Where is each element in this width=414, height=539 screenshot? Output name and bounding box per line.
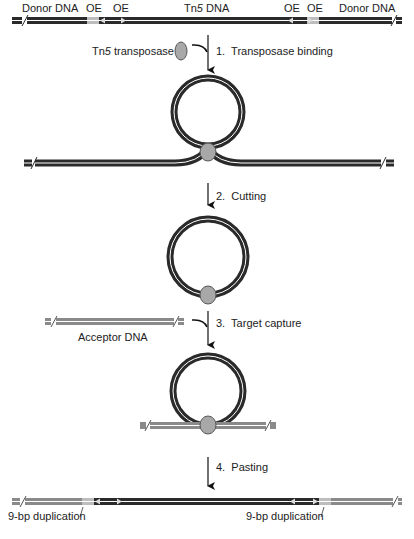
tn5-suffix: DNA	[203, 2, 229, 14]
transposase-prefix: Tn	[92, 45, 105, 57]
step-number: 2.	[216, 190, 225, 202]
acceptor-dna-strand	[45, 316, 184, 327]
step-4: 4. Pasting	[216, 461, 268, 473]
step-label: Pasting	[231, 461, 268, 473]
transposase-icon	[175, 42, 187, 60]
step-label: Transposase binding	[231, 45, 333, 57]
tn5-prefix: Tn	[184, 2, 197, 14]
oe-label-4: OE	[307, 2, 323, 14]
oe-label-2: OE	[113, 2, 129, 14]
step-2: 2. Cutting	[216, 190, 266, 202]
step-1: 1. Transposase binding	[216, 45, 333, 57]
step-number: 3.	[216, 317, 225, 329]
oe-label-1: OE	[86, 2, 102, 14]
tn5-dna-label: Tn5 DNA	[184, 2, 229, 14]
transposase-complex-icon	[200, 286, 216, 304]
loop-structure-1	[24, 78, 394, 169]
loop-structure-3	[140, 356, 276, 434]
donor-dna-label-left: Donor DNA	[22, 2, 78, 14]
donor-dna-strand	[12, 15, 402, 26]
transposase-complex-icon	[200, 416, 216, 434]
step-number: 1.	[216, 45, 225, 57]
donor-dna-label-right: Donor DNA	[339, 2, 395, 14]
transposase-label: Tn5 transposase	[92, 45, 174, 57]
loop-structure-2	[170, 219, 246, 304]
oe-label-3: OE	[284, 2, 300, 14]
transposase-suffix: transposase	[111, 45, 174, 57]
step-3: 3. Target capture	[216, 317, 301, 329]
duplication-label-left: 9-bp duplication	[8, 510, 86, 522]
acceptor-dna-label: Acceptor DNA	[78, 331, 148, 343]
diagram-canvas	[0, 0, 414, 539]
step-number: 4.	[216, 461, 225, 473]
duplication-label-right: 9-bp duplication	[246, 510, 324, 522]
step-label: Target capture	[231, 317, 301, 329]
step-label: Cutting	[231, 190, 266, 202]
transposase-complex-icon	[200, 143, 216, 161]
